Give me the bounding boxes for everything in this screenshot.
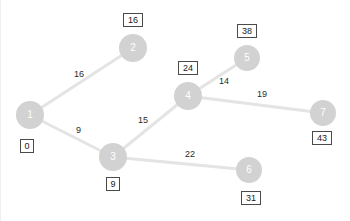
graph-node-2[interactable]: 2	[119, 34, 147, 62]
distance-box-node-4: 24	[178, 61, 198, 75]
distance-box-node-7: 43	[312, 131, 332, 145]
graph-node-label: 3	[110, 152, 116, 162]
graph-node-1[interactable]: 1	[16, 101, 44, 129]
graph-node-7[interactable]: 7	[310, 100, 336, 126]
graph-node-label: 1	[27, 110, 33, 120]
graph-node-3[interactable]: 3	[99, 143, 127, 171]
distance-box-node-1: 0	[20, 139, 34, 153]
distance-box-node-6: 31	[241, 191, 261, 205]
edge-4-7	[188, 96, 323, 113]
edge-weight-4-5: 14	[219, 77, 229, 86]
graph-node-6[interactable]: 6	[236, 157, 262, 183]
edge-weight-4-7: 19	[257, 90, 267, 99]
graph-node-4[interactable]: 4	[174, 82, 202, 110]
edge-1-2	[30, 48, 133, 115]
distance-box-node-2: 16	[123, 13, 143, 27]
edge-weight-3-6: 22	[185, 150, 195, 159]
graph-node-label: 5	[244, 53, 250, 63]
distance-box-node-5: 38	[237, 24, 257, 38]
distance-value: 38	[242, 27, 252, 36]
distance-value: 31	[246, 194, 256, 203]
edge-weight-1-2: 16	[74, 70, 84, 79]
graph-node-5[interactable]: 5	[234, 45, 260, 71]
distance-value: 43	[317, 134, 327, 143]
graph-canvas: 1234567 016924383143 16915221419	[0, 0, 350, 221]
distance-value: 16	[128, 16, 138, 25]
distance-box-node-3: 9	[106, 177, 120, 191]
edge-weight-3-4: 15	[138, 116, 148, 125]
graph-edges-layer	[0, 0, 350, 221]
edge-lines-group	[30, 48, 323, 170]
graph-node-label: 6	[246, 165, 252, 175]
edge-weight-1-3: 9	[76, 126, 81, 135]
distance-value: 24	[183, 64, 193, 73]
distance-value: 9	[110, 180, 115, 189]
graph-node-label: 4	[185, 91, 191, 101]
distance-value: 0	[24, 142, 29, 151]
graph-node-label: 7	[320, 108, 326, 118]
graph-node-label: 2	[130, 43, 136, 53]
edge-3-6	[113, 157, 249, 170]
